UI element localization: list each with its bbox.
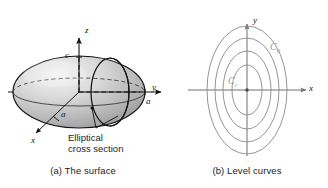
x-axis-label: x xyxy=(31,136,35,145)
figure-root: z c y a x a Elliptical cross section (a)… xyxy=(0,0,328,188)
annotation-line-2: cross section xyxy=(68,143,123,154)
caption-surface: (a) The surface xyxy=(0,165,166,176)
semi-axis-c-label: c xyxy=(65,51,69,60)
annotation-line-1: Elliptical xyxy=(68,132,123,143)
outer-curve-base: C xyxy=(270,41,277,52)
surface-highlight xyxy=(23,61,87,87)
panel-surface: z c y a x a Elliptical cross section (a)… xyxy=(0,0,166,188)
outer-level-curve-label: C0 xyxy=(270,42,280,55)
semi-axis-a-label: a xyxy=(61,110,66,119)
outer-curve-sub: 0 xyxy=(277,47,280,54)
caption-level-curves: (b) Level curves xyxy=(166,165,328,176)
inner-level-curve-label: Cc xyxy=(228,76,238,89)
y-axis-label: y xyxy=(152,83,156,92)
panel-level-curves: y x C0 Cc (b) Level curves xyxy=(166,0,328,188)
level-x-axis-label: x xyxy=(309,84,313,93)
elliptical-cross-section-annotation: Elliptical cross section xyxy=(68,132,123,154)
inner-curve-base: C xyxy=(228,75,235,86)
inner-curve-sub: c xyxy=(235,81,238,88)
level-y-axis-label: y xyxy=(253,16,257,25)
semi-axis-b-label: a xyxy=(146,97,151,106)
level-curves-drawing xyxy=(166,0,328,188)
z-axis-label: z xyxy=(85,26,89,35)
level-curves-axes xyxy=(188,24,306,156)
surface-drawing xyxy=(0,0,166,188)
